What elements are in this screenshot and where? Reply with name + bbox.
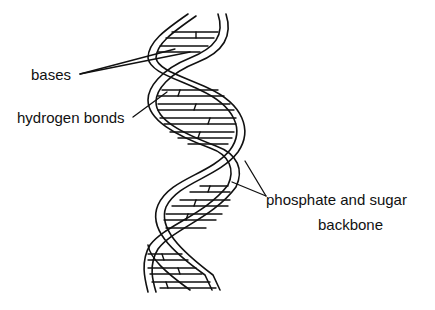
leader-bases-2: [80, 52, 190, 74]
label-hydrogen-bonds: hydrogen bonds: [17, 110, 125, 125]
label-backbone-line1: phosphate and sugar: [266, 192, 407, 207]
leader-backbone-2: [232, 182, 266, 196]
label-backbone-line2: backbone: [318, 217, 383, 232]
backbone-strand-b: [144, 14, 239, 292]
leader-backbone-1: [245, 161, 266, 196]
base-pairs-bottom: [148, 254, 216, 288]
base-pairs-lower: [164, 186, 230, 228]
leader-bases-1: [80, 49, 175, 74]
base-pairs-top: [158, 32, 218, 52]
label-bases: bases: [31, 67, 71, 82]
dna-helix-diagram: [0, 0, 435, 310]
